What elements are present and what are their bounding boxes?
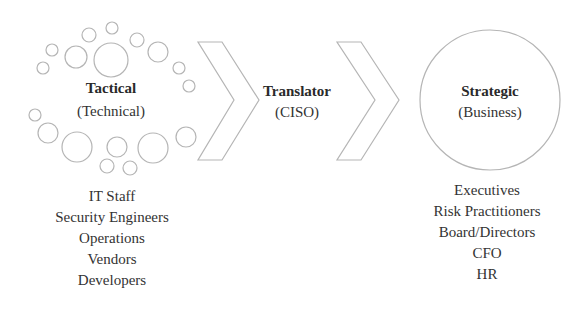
strategic-subtitle: (Business) [458, 104, 521, 121]
cluster-circle [37, 62, 49, 74]
cluster-circle [183, 80, 195, 92]
role-item: Security Engineers [55, 207, 169, 228]
chevron-arrow-2 [337, 42, 399, 160]
cluster-circle [107, 137, 127, 157]
cluster-circle [62, 132, 92, 162]
cluster-circle [38, 123, 58, 143]
cluster-circle [100, 159, 114, 173]
cluster-circle [138, 133, 168, 163]
role-item: Developers [55, 270, 169, 291]
tactical-roles-list: IT Staff Security Engineers Operations V… [55, 186, 169, 291]
role-item: Operations [55, 228, 169, 249]
role-item: Vendors [55, 249, 169, 270]
cluster-circle [173, 62, 185, 74]
tactical-title: Tactical [86, 80, 136, 97]
cluster-circle [106, 22, 118, 34]
cluster-circle [94, 43, 128, 77]
cluster-circle [148, 42, 168, 62]
translator-title: Translator [263, 83, 331, 100]
role-item: IT Staff [55, 186, 169, 207]
tactical-subtitle: (Technical) [77, 103, 145, 120]
cluster-circle [82, 28, 96, 42]
cluster-circle [130, 33, 144, 47]
cluster-circle [65, 46, 87, 68]
role-item: Executives [433, 180, 540, 201]
chevron-arrow-1 [198, 42, 259, 160]
role-item: Board/Directors [433, 222, 540, 243]
cluster-circle [29, 109, 41, 121]
strategic-circle [420, 30, 560, 170]
role-item: HR [433, 264, 540, 285]
translator-subtitle: (CISO) [275, 104, 319, 121]
strategic-roles-list: Executives Risk Practitioners Board/Dire… [433, 180, 540, 285]
role-item: CFO [433, 243, 540, 264]
cluster-circle [123, 161, 137, 175]
cluster-circle [176, 127, 196, 147]
role-item: Risk Practitioners [433, 201, 540, 222]
tactical-circle-cluster [29, 22, 196, 175]
strategic-title: Strategic [461, 83, 518, 100]
cluster-circle [46, 44, 58, 56]
